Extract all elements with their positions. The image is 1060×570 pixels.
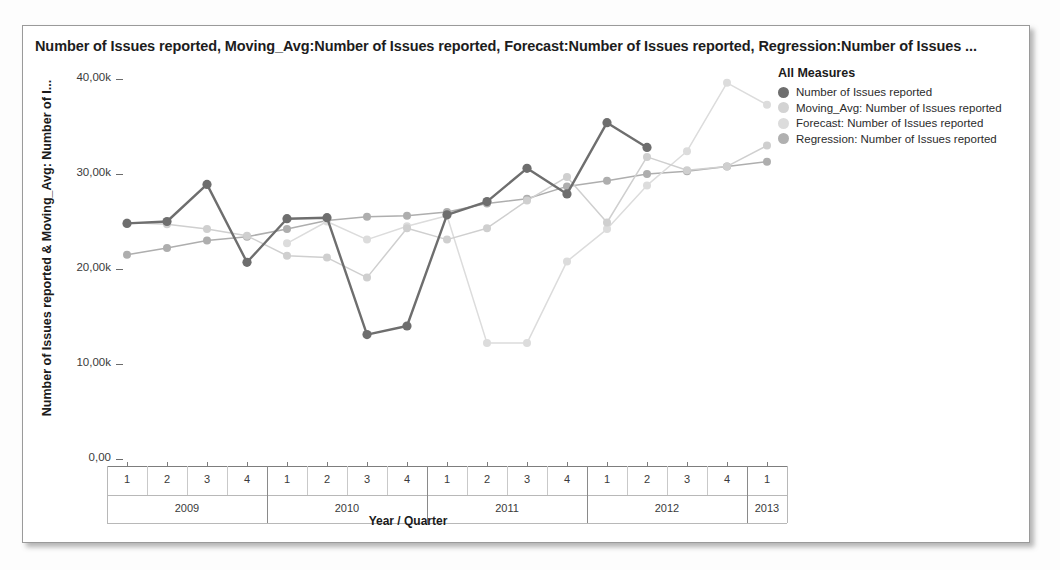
axis-rule bbox=[107, 495, 787, 496]
x-tick-label-quarter: 4 bbox=[390, 473, 424, 485]
data-point[interactable] bbox=[643, 170, 651, 178]
data-point[interactable] bbox=[122, 219, 131, 228]
axis-rule bbox=[327, 462, 328, 466]
data-point[interactable] bbox=[563, 173, 571, 181]
axis-rule bbox=[367, 462, 368, 466]
axis-rule bbox=[507, 466, 508, 495]
data-point[interactable] bbox=[403, 224, 411, 232]
legend-item[interactable]: Forecast: Number of Issues reported bbox=[778, 117, 1028, 129]
x-tick-label-year: 2011 bbox=[427, 502, 587, 514]
data-point[interactable] bbox=[482, 197, 491, 206]
axis-rule bbox=[247, 462, 248, 466]
y-tick-mark bbox=[116, 79, 123, 80]
x-tick-label-quarter: 4 bbox=[550, 473, 584, 485]
x-tick-label-quarter: 4 bbox=[230, 473, 264, 485]
axis-rule bbox=[407, 462, 408, 466]
y-tick-mark bbox=[116, 459, 123, 460]
axis-rule bbox=[567, 462, 568, 466]
data-point[interactable] bbox=[363, 213, 371, 221]
legend-item[interactable]: Moving_Avg: Number of Issues reported bbox=[778, 102, 1028, 114]
data-point[interactable] bbox=[283, 225, 291, 233]
legend-swatch-icon bbox=[778, 118, 789, 129]
data-point[interactable] bbox=[203, 237, 211, 245]
data-point[interactable] bbox=[523, 339, 531, 347]
data-point[interactable] bbox=[522, 164, 531, 173]
legend-items: Number of Issues reportedMoving_Avg: Num… bbox=[778, 86, 1028, 145]
axis-rule bbox=[267, 466, 268, 495]
data-point[interactable] bbox=[362, 330, 371, 339]
legend: All Measures Number of Issues reportedMo… bbox=[778, 66, 1028, 148]
data-point[interactable] bbox=[603, 177, 611, 185]
x-tick-label-quarter: 2 bbox=[630, 473, 664, 485]
x-tick-label-quarter: 2 bbox=[150, 473, 184, 485]
data-point[interactable] bbox=[243, 232, 251, 240]
x-tick-label-quarter: 3 bbox=[190, 473, 224, 485]
data-point[interactable] bbox=[763, 158, 771, 166]
axis-rule bbox=[727, 462, 728, 466]
x-tick-label-quarter: 3 bbox=[350, 473, 384, 485]
data-point[interactable] bbox=[282, 214, 291, 223]
axis-rule bbox=[587, 466, 588, 495]
data-point[interactable] bbox=[123, 251, 131, 259]
y-tick-mark bbox=[116, 174, 123, 175]
screenshot-root: Number of Issues reported, Moving_Avg:Nu… bbox=[0, 0, 1060, 570]
data-point[interactable] bbox=[363, 236, 371, 244]
x-tick-label-quarter: 3 bbox=[670, 473, 704, 485]
x-tick-label-quarter: 3 bbox=[510, 473, 544, 485]
axis-rule bbox=[487, 462, 488, 466]
data-point[interactable] bbox=[683, 166, 691, 174]
data-point[interactable] bbox=[723, 162, 731, 170]
x-tick-label-year: 2009 bbox=[107, 502, 267, 514]
data-point[interactable] bbox=[323, 254, 331, 262]
data-point[interactable] bbox=[363, 274, 371, 282]
axis-rule bbox=[347, 466, 348, 495]
axis-rule bbox=[107, 466, 787, 467]
data-point[interactable] bbox=[283, 239, 291, 247]
data-point[interactable] bbox=[683, 147, 691, 155]
legend-item-label: Number of Issues reported bbox=[796, 86, 932, 98]
data-point[interactable] bbox=[402, 321, 411, 330]
axis-rule bbox=[307, 466, 308, 495]
y-tick-mark bbox=[116, 364, 123, 365]
data-point[interactable] bbox=[763, 101, 771, 109]
data-point[interactable] bbox=[643, 153, 651, 161]
data-point[interactable] bbox=[443, 236, 451, 244]
data-point[interactable] bbox=[642, 143, 651, 152]
axis-rule bbox=[687, 462, 688, 466]
data-point[interactable] bbox=[483, 339, 491, 347]
data-point[interactable] bbox=[242, 258, 251, 267]
y-tick-mark bbox=[116, 269, 123, 270]
data-point[interactable] bbox=[202, 180, 211, 189]
data-point[interactable] bbox=[283, 252, 291, 260]
data-point[interactable] bbox=[603, 219, 611, 227]
legend-item[interactable]: Number of Issues reported bbox=[778, 86, 1028, 98]
axis-rule bbox=[667, 466, 668, 495]
data-point[interactable] bbox=[723, 79, 731, 87]
data-point[interactable] bbox=[322, 213, 331, 222]
data-point[interactable] bbox=[523, 197, 531, 205]
x-tick-label-quarter: 1 bbox=[430, 473, 464, 485]
axis-rule bbox=[127, 462, 128, 466]
data-point[interactable] bbox=[442, 210, 451, 219]
legend-item[interactable]: Regression: Number of Issues reported bbox=[778, 133, 1028, 145]
x-tick-label-quarter: 2 bbox=[470, 473, 504, 485]
data-point[interactable] bbox=[483, 224, 491, 232]
data-point[interactable] bbox=[643, 181, 651, 189]
legend-item-label: Moving_Avg: Number of Issues reported bbox=[796, 102, 1002, 114]
axis-rule bbox=[187, 466, 188, 495]
data-point[interactable] bbox=[562, 189, 571, 198]
data-point[interactable] bbox=[563, 257, 571, 265]
data-point[interactable] bbox=[403, 212, 411, 220]
data-point[interactable] bbox=[203, 225, 211, 233]
data-point[interactable] bbox=[162, 217, 171, 226]
data-point[interactable] bbox=[602, 118, 611, 127]
axis-rule bbox=[387, 466, 388, 495]
axis-rule bbox=[607, 462, 608, 466]
x-tick-label-year: 2010 bbox=[267, 502, 427, 514]
legend-title: All Measures bbox=[778, 66, 1028, 80]
data-point[interactable] bbox=[163, 244, 171, 252]
data-point[interactable] bbox=[763, 142, 771, 150]
axis-rule bbox=[167, 462, 168, 466]
axis-rule bbox=[147, 466, 148, 495]
axis-rule bbox=[547, 466, 548, 495]
